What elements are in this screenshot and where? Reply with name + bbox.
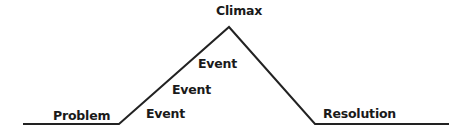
label-problem: Problem: [53, 108, 110, 123]
label-event-top: Event: [198, 56, 237, 71]
label-event-bottom: Event: [146, 106, 185, 121]
label-resolution: Resolution: [323, 106, 396, 121]
label-event-middle: Event: [172, 82, 211, 97]
label-climax: Climax: [216, 3, 262, 18]
